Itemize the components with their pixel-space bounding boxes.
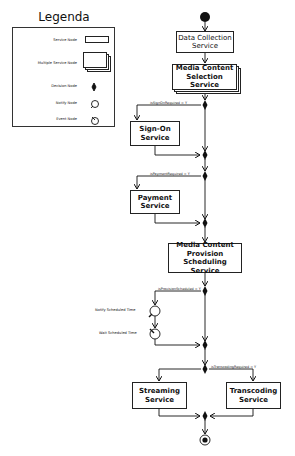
streaming-service-node: Streaming Service [132,382,187,409]
merge-sign-on [203,150,208,160]
node-label: Media Content Selection Service [173,64,236,90]
node-label: Media Content Provision Scheduling Servi… [169,241,241,275]
node-label: Sign-On Service [131,125,179,142]
decision-transcoding [203,364,208,374]
condition-provision: isProvisionScheduled = Y [158,287,201,291]
merge-final [203,411,208,421]
merge-payment [203,218,208,228]
node-label: Payment Service [131,194,179,211]
event-node-icon [92,118,99,125]
merge-provision [203,340,208,350]
condition-transcoding: isTranscodingRequired = Y [211,365,256,369]
sign-on-service-node: Sign-On Service [130,121,180,146]
media-content-selection-service-node: Media Content Selection Service [172,64,237,90]
decision-node-icon [92,83,96,91]
wait-scheduled-time-label: Wait Scheduled Time [99,331,137,335]
start-node [200,12,210,22]
condition-payment: isPaymentRequired = Y [150,172,190,176]
condition-sign-on: isSignOnRequired = Y [150,101,187,105]
media-content-provision-scheduling-service-node: Media Content Provision Scheduling Servi… [168,243,242,273]
decision-payment [203,171,208,181]
node-label: Data Collection Service [177,34,233,51]
decision-provision [203,286,208,296]
node-label: Transcoding Service [227,387,280,404]
notify-scheduled-time-label: Notify Scheduled Time [95,308,136,312]
decision-sign-on [203,100,208,110]
transcoding-service-node: Transcoding Service [226,382,281,409]
data-collection-service-node: Data Collection Service [176,31,234,53]
node-label: Streaming Service [133,387,186,404]
payment-service-node: Payment Service [130,190,180,214]
